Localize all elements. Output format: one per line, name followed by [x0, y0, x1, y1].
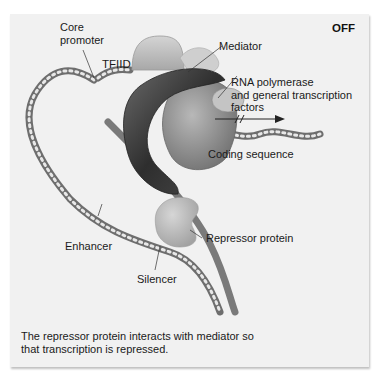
figure-caption: The repressor protein interacts with med… — [21, 330, 281, 356]
core-promoter-label: Core promoter — [60, 21, 104, 46]
silencer-label: Silencer — [137, 273, 177, 286]
repressor-protein-label: Repressor protein — [206, 232, 293, 245]
state-label: OFF — [332, 22, 355, 34]
diagram-artwork — [10, 14, 369, 367]
tfiid-label: TFIID — [102, 58, 131, 71]
rna-polymerase-line-2: and general transcription — [231, 89, 352, 102]
enhancer-label: Enhancer — [65, 240, 112, 253]
caption-line-2: that transcription is repressed. — [21, 343, 281, 356]
core-promoter-line-1: Core — [60, 21, 104, 34]
repressor-protein-shape — [155, 197, 198, 247]
rna-polymerase-label: RNA polymerase and general transcription… — [231, 76, 352, 114]
coding-sequence-label: Coding sequence — [208, 148, 294, 161]
mediator-label: Mediator — [219, 40, 262, 53]
rna-polymerase-line-3: factors — [231, 101, 352, 114]
figure-panel: OFF Core promoter TFIID Mediator RNA pol… — [10, 14, 369, 367]
tfiid-protein — [132, 36, 184, 70]
core-promoter-line-2: promoter — [60, 34, 104, 47]
rna-polymerase-line-1: RNA polymerase — [231, 76, 352, 89]
caption-line-1: The repressor protein interacts with med… — [21, 330, 281, 343]
